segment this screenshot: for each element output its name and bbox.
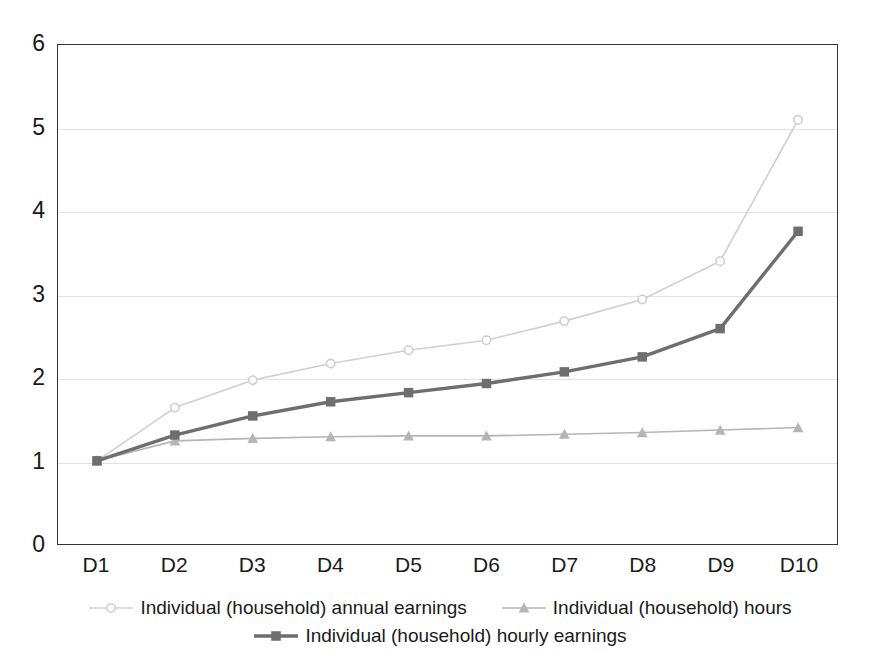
data-point-marker xyxy=(170,430,179,439)
y-tick-label: 6 xyxy=(0,32,45,55)
x-tick-label: D8 xyxy=(629,553,656,577)
y-tick-label: 5 xyxy=(0,116,45,139)
x-tick-label: D10 xyxy=(780,553,819,577)
x-tick-label: D4 xyxy=(317,553,344,577)
data-point-marker xyxy=(92,456,101,465)
x-tick-label: D2 xyxy=(161,553,188,577)
data-point-marker xyxy=(249,376,257,384)
legend-label: Individual (household) hours xyxy=(553,597,792,619)
legend-entry[interactable]: Individual (household) hours xyxy=(501,597,792,619)
data-point-marker xyxy=(326,359,334,367)
legend-entry[interactable]: Individual (household) annual earnings xyxy=(88,597,466,619)
x-tick-label: D7 xyxy=(551,553,578,577)
chart-legend: Individual (household) annual earningsIn… xyxy=(0,594,880,650)
y-tick-label: 4 xyxy=(0,199,45,222)
data-point-marker xyxy=(638,295,646,303)
legend-square-marker-icon xyxy=(253,628,299,644)
x-axis: D1D2D3D4D5D6D7D8D9D10 xyxy=(57,553,838,583)
plot-area xyxy=(57,44,838,545)
x-tick-label: D5 xyxy=(395,553,422,577)
series-1 xyxy=(93,116,802,465)
data-point-marker xyxy=(793,227,802,236)
legend-circle-marker-icon xyxy=(88,600,134,616)
legend-triangle-marker-icon xyxy=(501,600,547,616)
y-tick-label: 1 xyxy=(0,450,45,473)
series-line xyxy=(97,428,798,461)
series-line xyxy=(97,231,798,461)
y-tick-label: 3 xyxy=(0,283,45,306)
data-point-marker xyxy=(794,116,802,124)
series-layer xyxy=(58,45,837,544)
data-point-marker xyxy=(716,257,724,265)
data-point-marker xyxy=(715,324,724,333)
data-point-marker xyxy=(248,411,257,420)
legend-label: Individual (household) annual earnings xyxy=(140,597,466,619)
y-tick-label: 0 xyxy=(0,533,45,556)
legend-entry[interactable]: Individual (household) hourly earnings xyxy=(253,625,626,647)
data-point-marker xyxy=(404,388,413,397)
data-point-marker xyxy=(326,397,335,406)
x-tick-label: D9 xyxy=(707,553,734,577)
data-point-marker xyxy=(171,403,179,411)
legend-row: Individual (household) hourly earnings xyxy=(0,622,880,650)
y-tick-label: 2 xyxy=(0,366,45,389)
x-tick-label: D6 xyxy=(473,553,500,577)
data-point-marker xyxy=(482,379,491,388)
data-point-marker xyxy=(560,367,569,376)
series-line xyxy=(97,120,798,461)
series-3 xyxy=(92,227,803,466)
x-tick-label: D3 xyxy=(239,553,266,577)
data-point-marker xyxy=(638,352,647,361)
data-point-marker xyxy=(482,336,490,344)
y-axis: 0123456 xyxy=(0,0,45,672)
legend-row: Individual (household) annual earningsIn… xyxy=(0,594,880,622)
x-tick-label: D1 xyxy=(83,553,110,577)
data-point-marker xyxy=(560,317,568,325)
data-point-marker xyxy=(404,346,412,354)
chart-figure: 0123456 D1D2D3D4D5D6D7D8D9D10 Individual… xyxy=(0,0,880,672)
legend-label: Individual (household) hourly earnings xyxy=(305,625,626,647)
